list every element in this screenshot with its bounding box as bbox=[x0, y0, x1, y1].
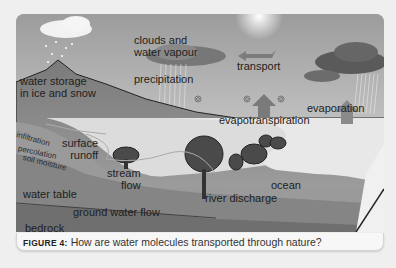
label-water-storage: water storage in ice and snow bbox=[20, 75, 96, 99]
water-cycle-diagram: clouds and water vapour transport precip… bbox=[16, 14, 384, 232]
label-clouds: clouds and water vapour bbox=[134, 34, 198, 58]
figure-caption: FIGURE 4: How are water molecules transp… bbox=[16, 233, 384, 251]
label-stream-flow: stream flow bbox=[107, 167, 141, 191]
label-river-discharge: river discharge bbox=[205, 192, 277, 204]
label-evapotranspiration: evapotranspiration bbox=[219, 114, 310, 126]
figure-number: FIGURE 4: bbox=[23, 238, 68, 248]
label-precipitation: precipitation bbox=[134, 73, 193, 85]
caption-text: How are water molecules transported thro… bbox=[68, 236, 322, 248]
label-ground-water-flow: ground water flow bbox=[73, 206, 160, 218]
label-surface-runoff: surface runoff bbox=[62, 137, 98, 161]
label-ocean: ocean bbox=[271, 179, 301, 191]
label-transport: transport bbox=[237, 60, 280, 72]
label-water-table: water table bbox=[23, 188, 77, 200]
label-bedrock: bedrock bbox=[25, 222, 64, 232]
label-evaporation: evaporation bbox=[307, 102, 365, 114]
